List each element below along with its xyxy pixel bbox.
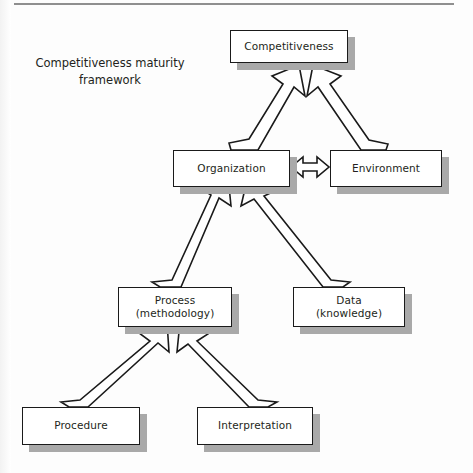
node-organization[interactable]: Organization [173,150,290,187]
figure-canvas: Competitiveness maturity framework Compe… [0,0,473,473]
node-environment[interactable]: Environment [330,150,442,187]
node-competitiveness-label: Competitiveness [244,40,333,53]
node-data-label: Data (knowledge) [316,294,382,320]
node-procedure[interactable]: Procedure [22,407,140,445]
node-interpretation-label: Interpretation [218,419,292,432]
node-environment-label: Environment [352,162,420,175]
node-process[interactable]: Process (methodology) [118,287,232,327]
node-competitiveness[interactable]: Competitiveness [230,30,348,63]
node-interpretation[interactable]: Interpretation [197,407,313,445]
node-data[interactable]: Data (knowledge) [293,287,405,327]
figure-title: Competitiveness maturity framework [20,55,200,88]
arrow-organization-to-competitiveness [229,65,305,150]
arrow-interpretation-to-process [177,322,277,407]
node-organization-label: Organization [197,162,265,175]
node-process-label: Process (methodology) [136,294,215,320]
node-procedure-label: Procedure [54,419,108,432]
arrow-procedure-to-process [61,322,169,407]
arrow-environment-to-competitiveness [307,65,388,150]
